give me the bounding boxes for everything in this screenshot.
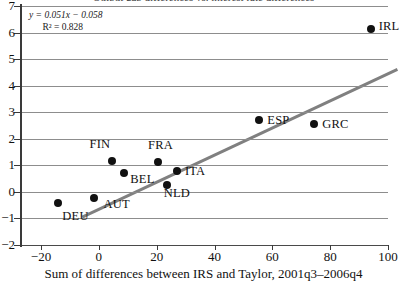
y-axis-label: 4 xyxy=(0,79,15,92)
y-gridline xyxy=(21,192,388,193)
data-point-grc[interactable] xyxy=(310,120,318,128)
data-point-label-aut: AUT xyxy=(103,198,129,211)
y-axis-label: 6 xyxy=(0,26,15,39)
data-point-esp[interactable] xyxy=(255,116,263,124)
y-gridline xyxy=(21,245,388,246)
data-point-label-fra: FRA xyxy=(148,139,173,152)
regression-annotation: y = 0.051x − 0.058 R² = 0.828 xyxy=(25,8,106,35)
x-axis-label: 40 xyxy=(195,250,235,264)
data-point-label-deu: DEU xyxy=(62,210,88,223)
y-gridline xyxy=(21,112,388,113)
data-point-label-irl: IRL xyxy=(379,20,400,33)
data-point-label-grc: GRC xyxy=(322,118,348,131)
y-gridline xyxy=(21,139,388,140)
x-axis-title: Sum of differences between IRS and Taylo… xyxy=(0,266,407,281)
scatter-chart-figure: Output gap differences vs. interest rate… xyxy=(0,0,407,285)
y-gridline xyxy=(21,86,388,87)
data-point-irl[interactable] xyxy=(367,25,375,33)
x-axis-label: −20 xyxy=(21,250,61,264)
data-point-fin[interactable] xyxy=(108,157,116,165)
y-axis-label: 1 xyxy=(0,158,15,171)
regression-equation: y = 0.051x − 0.058 xyxy=(29,9,103,21)
data-point-label-bel: BEL xyxy=(130,173,154,186)
x-axis-label: 0 xyxy=(79,250,119,264)
y-axis-label: 0 xyxy=(0,185,15,198)
x-axis-label: 20 xyxy=(137,250,177,264)
data-point-deu[interactable] xyxy=(54,199,62,207)
data-point-label-esp: ESP xyxy=(267,114,289,127)
y-axis-label: −1 xyxy=(0,211,15,224)
x-axis-label: 60 xyxy=(252,250,292,264)
y-axis-label: 7 xyxy=(0,0,15,12)
y-gridline xyxy=(21,6,388,7)
y-gridline xyxy=(21,59,388,60)
data-point-label-fin: FIN xyxy=(90,138,111,151)
x-axis-label: 80 xyxy=(310,250,350,264)
trendline-svg xyxy=(21,6,407,285)
data-point-label-ita: ITA xyxy=(185,165,205,178)
regression-r-squared: R² = 0.828 xyxy=(29,21,103,33)
data-point-label-nld: NLD xyxy=(164,187,190,200)
y-gridline xyxy=(21,33,388,34)
x-axis-label: 100 xyxy=(368,250,407,264)
y-axis-label: −2 xyxy=(0,238,15,251)
data-point-fra[interactable] xyxy=(154,158,162,166)
y-axis-label: 3 xyxy=(0,105,15,118)
y-axis-line xyxy=(20,4,22,247)
regression-trendline xyxy=(82,69,397,217)
y-axis-label: 2 xyxy=(0,132,15,145)
figure-title: Output gap differences vs. interest rate… xyxy=(0,0,407,1)
y-axis-label: 5 xyxy=(0,52,15,65)
